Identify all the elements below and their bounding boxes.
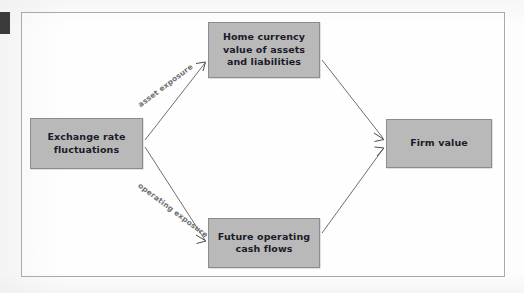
diagram-page: asset exposure operating exposure Exchan… xyxy=(0,0,524,293)
node-exchange-rate-line1: Exchange rate xyxy=(47,131,125,142)
node-future-operating-cash-flows[interactable]: Future operating cash flows xyxy=(208,218,320,268)
node-home-currency-label: Home currency value of assets and liabil… xyxy=(223,31,305,69)
node-firm-value-label: Firm value xyxy=(410,137,468,150)
node-future-operating-line1: Future operating xyxy=(218,231,310,242)
node-home-currency-line1: Home currency xyxy=(223,31,305,42)
node-home-currency-value[interactable]: Home currency value of assets and liabil… xyxy=(208,22,320,78)
node-exchange-rate-line2: fluctuations xyxy=(54,144,119,155)
edge-home-to-firm xyxy=(322,60,384,142)
edge-future-to-firm xyxy=(322,147,384,233)
node-exchange-rate-fluctuations[interactable]: Exchange rate fluctuations xyxy=(30,118,143,169)
node-future-operating-line2: cash flows xyxy=(235,243,292,254)
node-firm-value[interactable]: Firm value xyxy=(386,119,492,168)
node-home-currency-line3: and liabilities xyxy=(227,56,301,67)
node-future-operating-label: Future operating cash flows xyxy=(218,231,310,256)
node-home-currency-line2: value of assets xyxy=(223,44,305,55)
node-exchange-rate-label: Exchange rate fluctuations xyxy=(47,131,125,156)
